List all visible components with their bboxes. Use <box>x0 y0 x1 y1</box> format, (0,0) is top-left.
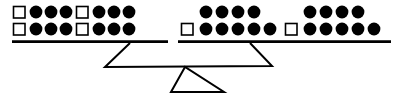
filled-circle-token <box>216 23 229 36</box>
filled-circle-token <box>60 6 73 19</box>
filled-circle-token <box>264 23 277 36</box>
open-square-token <box>14 24 26 36</box>
balance-scale-figure <box>0 0 403 97</box>
open-square-token <box>286 24 298 36</box>
filled-circle-token <box>216 6 229 19</box>
filled-circle-token <box>336 6 349 19</box>
filled-circle-token <box>30 23 43 36</box>
filled-circle-token <box>200 6 213 19</box>
filled-circle-token <box>352 6 365 19</box>
left-pan-bottom-row <box>14 23 136 36</box>
left-pan <box>12 6 168 42</box>
filled-circle-token <box>108 6 121 19</box>
filled-circle-token <box>304 6 317 19</box>
open-square-token <box>77 7 89 19</box>
filled-circle-token <box>248 6 261 19</box>
filled-circle-token <box>123 23 136 36</box>
open-square-token <box>182 24 194 36</box>
filled-circle-token <box>200 23 213 36</box>
filled-circle-token <box>123 6 136 19</box>
filled-circle-token <box>320 6 333 19</box>
fulcrum-triangle <box>171 67 224 92</box>
filled-circle-token <box>352 23 365 36</box>
filled-circle-token <box>368 23 381 36</box>
open-square-token <box>77 24 89 36</box>
filled-circle-token <box>304 23 317 36</box>
scale-stand-frame <box>105 43 272 67</box>
filled-circle-token <box>108 23 121 36</box>
right-pan-top-row <box>200 6 365 19</box>
filled-circle-token <box>248 23 261 36</box>
right-pan-bottom-row <box>182 23 381 36</box>
filled-circle-token <box>30 6 43 19</box>
left-pan-top-row <box>14 6 136 19</box>
filled-circle-token <box>336 23 349 36</box>
filled-circle-token <box>45 6 58 19</box>
filled-circle-token <box>60 23 73 36</box>
right-pan <box>178 6 391 42</box>
filled-circle-token <box>93 23 106 36</box>
filled-circle-token <box>45 23 58 36</box>
balance-scale-scene <box>0 0 403 97</box>
filled-circle-token <box>232 6 245 19</box>
filled-circle-token <box>320 23 333 36</box>
open-square-token <box>14 7 26 19</box>
filled-circle-token <box>93 6 106 19</box>
filled-circle-token <box>232 23 245 36</box>
